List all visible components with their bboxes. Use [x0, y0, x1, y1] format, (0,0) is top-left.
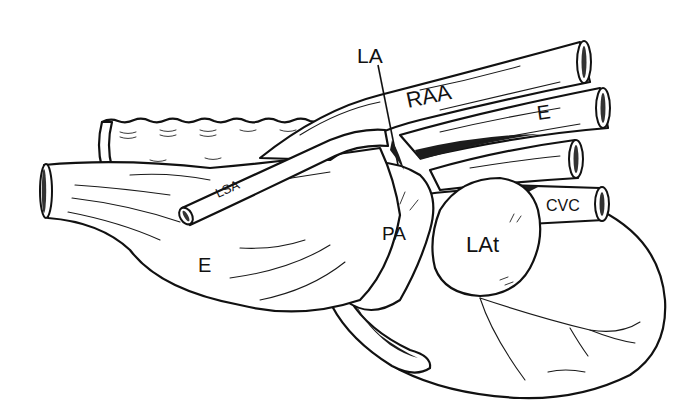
- anatomical-diagram: LA RAA E LSA PA LAt CVC E: [0, 0, 683, 417]
- esophagus-lower: [40, 148, 400, 311]
- label-la: LA: [357, 44, 383, 67]
- label-lat: LAt: [466, 232, 499, 257]
- label-cvc: CVC: [546, 197, 580, 214]
- label-pa: PA: [382, 223, 406, 244]
- label-e-lower: E: [198, 254, 211, 276]
